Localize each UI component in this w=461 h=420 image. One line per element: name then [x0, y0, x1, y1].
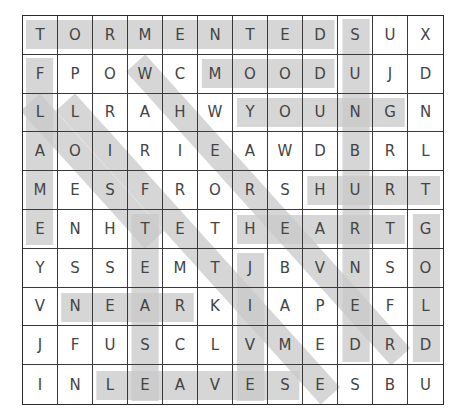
grid-cell[interactable]: O	[198, 171, 233, 210]
grid-cell[interactable]: O	[58, 16, 93, 55]
grid-cell[interactable]: L	[93, 365, 128, 404]
grid-cell[interactable]: M	[163, 249, 198, 288]
grid-cell[interactable]: M	[23, 171, 58, 210]
grid-cell[interactable]: J	[23, 326, 58, 365]
grid-cell[interactable]: O	[58, 132, 93, 171]
grid-cell[interactable]: R	[233, 171, 268, 210]
grid-cell[interactable]: A	[128, 94, 163, 133]
grid-cell[interactable]: A	[128, 288, 163, 327]
grid-cell[interactable]: N	[338, 94, 373, 133]
grid-cell[interactable]: O	[408, 249, 443, 288]
grid-cell[interactable]: D	[408, 55, 443, 94]
grid-cell[interactable]: R	[93, 16, 128, 55]
grid-cell[interactable]: U	[338, 171, 373, 210]
grid-cell[interactable]: N	[408, 94, 443, 133]
grid-cell[interactable]: D	[408, 326, 443, 365]
grid-cell[interactable]: R	[93, 94, 128, 133]
grid-cell[interactable]: R	[163, 288, 198, 327]
grid-cell[interactable]: E	[93, 288, 128, 327]
grid-cell[interactable]: Y	[23, 249, 58, 288]
grid-cell[interactable]: A	[233, 132, 268, 171]
grid-cell[interactable]: N	[338, 249, 373, 288]
grid-cell[interactable]: E	[163, 210, 198, 249]
grid-cell[interactable]: E	[128, 249, 163, 288]
grid-cell[interactable]: G	[373, 94, 408, 133]
grid-cell[interactable]: N	[58, 365, 93, 404]
grid-cell[interactable]: O	[93, 55, 128, 94]
grid-cell[interactable]: E	[268, 210, 303, 249]
grid-cell[interactable]: T	[128, 210, 163, 249]
grid-cell[interactable]: R	[373, 326, 408, 365]
grid-cell[interactable]: F	[373, 288, 408, 327]
grid-cell[interactable]: E	[198, 132, 233, 171]
grid-cell[interactable]: S	[93, 171, 128, 210]
grid-cell[interactable]: W	[198, 94, 233, 133]
grid-cell[interactable]: A	[303, 210, 338, 249]
grid-cell[interactable]: T	[198, 249, 233, 288]
grid-cell[interactable]: E	[58, 171, 93, 210]
grid-cell[interactable]: E	[303, 365, 338, 404]
grid-cell[interactable]: E	[268, 16, 303, 55]
grid-cell[interactable]: N	[58, 210, 93, 249]
grid-cell[interactable]: T	[373, 210, 408, 249]
grid-cell[interactable]: I	[93, 132, 128, 171]
grid-cell[interactable]: E	[338, 288, 373, 327]
grid-cell[interactable]: S	[58, 249, 93, 288]
grid-cell[interactable]: U	[303, 94, 338, 133]
grid-cell[interactable]: H	[233, 210, 268, 249]
grid-cell[interactable]: V	[233, 326, 268, 365]
grid-cell[interactable]: J	[373, 55, 408, 94]
grid-cell[interactable]: I	[233, 288, 268, 327]
grid-cell[interactable]: W	[268, 132, 303, 171]
grid-cell[interactable]: F	[128, 171, 163, 210]
grid-cell[interactable]: R	[128, 132, 163, 171]
grid-cell[interactable]: G	[408, 210, 443, 249]
grid-cell[interactable]: E	[23, 210, 58, 249]
grid-cell[interactable]: A	[23, 132, 58, 171]
grid-cell[interactable]: A	[268, 288, 303, 327]
grid-cell[interactable]: R	[163, 171, 198, 210]
grid-cell[interactable]: U	[373, 16, 408, 55]
grid-cell[interactable]: M	[268, 326, 303, 365]
grid-cell[interactable]: D	[303, 132, 338, 171]
grid-cell[interactable]: V	[303, 249, 338, 288]
grid-cell[interactable]: S	[128, 326, 163, 365]
grid-cell[interactable]: N	[198, 16, 233, 55]
grid-cell[interactable]: L	[23, 94, 58, 133]
grid-cell[interactable]: E	[233, 365, 268, 404]
grid-cell[interactable]: R	[373, 132, 408, 171]
grid-cell[interactable]: S	[373, 249, 408, 288]
grid-cell[interactable]: T	[233, 16, 268, 55]
grid-cell[interactable]: L	[198, 326, 233, 365]
grid-cell[interactable]: D	[338, 326, 373, 365]
grid-cell[interactable]: M	[198, 55, 233, 94]
grid-cell[interactable]: P	[303, 288, 338, 327]
grid-cell[interactable]: U	[93, 326, 128, 365]
grid-cell[interactable]: O	[233, 55, 268, 94]
grid-cell[interactable]: R	[338, 210, 373, 249]
grid-cell[interactable]: X	[408, 16, 443, 55]
grid-cell[interactable]: H	[93, 210, 128, 249]
grid-cell[interactable]: I	[23, 365, 58, 404]
grid-cell[interactable]: E	[128, 365, 163, 404]
grid-cell[interactable]: S	[338, 365, 373, 404]
grid-cell[interactable]: S	[93, 249, 128, 288]
grid-cell[interactable]: H	[163, 94, 198, 133]
grid-cell[interactable]: D	[303, 55, 338, 94]
grid-cell[interactable]: I	[163, 132, 198, 171]
grid-cell[interactable]: E	[163, 16, 198, 55]
grid-cell[interactable]: F	[23, 55, 58, 94]
grid-cell[interactable]: B	[338, 132, 373, 171]
grid-cell[interactable]: C	[163, 326, 198, 365]
grid-cell[interactable]: V	[198, 365, 233, 404]
grid-cell[interactable]: T	[408, 171, 443, 210]
grid-cell[interactable]: T	[23, 16, 58, 55]
grid-cell[interactable]: U	[338, 55, 373, 94]
grid-cell[interactable]: T	[198, 210, 233, 249]
grid-cell[interactable]: V	[23, 288, 58, 327]
grid-cell[interactable]: M	[128, 16, 163, 55]
grid-cell[interactable]: K	[198, 288, 233, 327]
grid-cell[interactable]: B	[373, 365, 408, 404]
grid-cell[interactable]: U	[408, 365, 443, 404]
grid-cell[interactable]: A	[163, 365, 198, 404]
